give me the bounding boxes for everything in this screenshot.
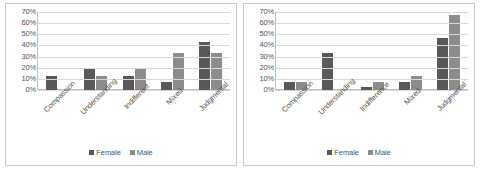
x-axis-label-cell: Judgmental	[192, 92, 230, 138]
bar-female	[123, 76, 134, 90]
legend-item-female[interactable]: Female	[89, 149, 120, 157]
plot-area-left	[38, 12, 230, 90]
y-axis-tick-label: 70%	[260, 8, 274, 16]
legend-item-male[interactable]: Male	[130, 149, 153, 157]
y-axis-tick-label: 0%	[264, 86, 274, 94]
x-axis-label-cell: Understanding	[76, 92, 114, 138]
x-axis-label-cell: Mixed	[391, 92, 429, 138]
bar-female	[199, 42, 210, 90]
legend-label: Female	[96, 149, 120, 157]
bar-female	[399, 82, 410, 90]
legend-swatch-icon	[130, 150, 135, 155]
bar-female	[161, 82, 172, 90]
y-axis-tick-label: 40%	[22, 42, 36, 50]
gridline	[276, 57, 468, 58]
plot-wrapper-left: 70%60%50%40%30%20%10%0% CompassionUnders…	[6, 4, 236, 165]
gridline	[38, 79, 230, 80]
x-axis-labels-left: CompassionUnderstandingIndifferentMixedJ…	[38, 92, 230, 138]
x-axis-label-cell: Mixed	[153, 92, 191, 138]
x-axis-label-cell: Compassion	[38, 92, 76, 138]
y-axis-left: 70%60%50%40%30%20%10%0%	[10, 12, 36, 90]
y-axis-tick-label: 60%	[22, 19, 36, 27]
x-axis-label-cell: Understanding	[314, 92, 352, 138]
bar-female	[322, 53, 333, 90]
y-axis-tick-label: 60%	[260, 19, 274, 27]
y-axis-tick-label: 20%	[260, 64, 274, 72]
bar-male	[173, 53, 184, 90]
gridline	[276, 68, 468, 69]
y-axis-tick-label: 50%	[260, 31, 274, 39]
gridline	[276, 79, 468, 80]
gridline	[276, 45, 468, 46]
y-axis-tick-label: 10%	[260, 75, 274, 83]
x-axis-label-cell: Indifferent	[115, 92, 153, 138]
y-axis-tick-label: 20%	[22, 64, 36, 72]
y-axis-tick-label: 10%	[22, 75, 36, 83]
legend-swatch-icon	[368, 150, 373, 155]
legend-right: FemaleMale	[244, 149, 474, 157]
dual-bar-chart-figure: 70%60%50%40%30%20%10%0% CompassionUnders…	[0, 0, 481, 170]
legend-label: Male	[375, 149, 391, 157]
gridline	[38, 12, 230, 13]
y-axis-tick-label: 70%	[22, 8, 36, 16]
gridline	[38, 57, 230, 58]
y-axis-right: 70%60%50%40%30%20%10%0%	[248, 12, 274, 90]
plot-wrapper-right: 70%60%50%40%30%20%10%0% CompassionUnders…	[244, 4, 474, 165]
legend-label: Male	[137, 149, 153, 157]
plot-area-right	[276, 12, 468, 90]
legend-item-female[interactable]: Female	[327, 149, 358, 157]
gridline	[276, 12, 468, 13]
chart-panel-left: 70%60%50%40%30%20%10%0% CompassionUnders…	[5, 3, 237, 166]
legend-swatch-icon	[327, 150, 332, 155]
y-axis-tick-label: 0%	[26, 86, 36, 94]
bar-female	[46, 76, 57, 90]
gridline	[276, 34, 468, 35]
legend-left: FemaleMale	[6, 149, 236, 157]
x-axis-label-cell: Indifference	[353, 92, 391, 138]
x-axis-labels-right: CompassionUnderstandingIndifferenceMixed…	[276, 92, 468, 138]
gridline	[276, 23, 468, 24]
y-axis-tick-label: 30%	[22, 53, 36, 61]
gridline	[38, 45, 230, 46]
gridline	[38, 68, 230, 69]
legend-swatch-icon	[89, 150, 94, 155]
y-axis-tick-label: 50%	[22, 31, 36, 39]
legend-item-male[interactable]: Male	[368, 149, 391, 157]
gridline	[38, 23, 230, 24]
x-axis-label-cell: Judgmental	[430, 92, 468, 138]
y-axis-tick-label: 40%	[260, 42, 274, 50]
y-axis-tick-label: 30%	[260, 53, 274, 61]
x-axis-label-cell: Compassion	[276, 92, 314, 138]
legend-label: Female	[334, 149, 358, 157]
bar-female	[284, 82, 295, 90]
chart-panel-right: 70%60%50%40%30%20%10%0% CompassionUnders…	[243, 3, 475, 166]
gridline	[38, 34, 230, 35]
